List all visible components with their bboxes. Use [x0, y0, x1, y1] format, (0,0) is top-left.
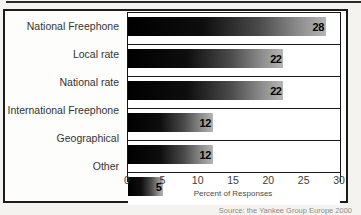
bar: 22 [128, 49, 283, 68]
category-label: National Freephone [5, 12, 123, 40]
x-tick-label: 0 [124, 174, 130, 186]
chart-row: 22 [128, 81, 340, 109]
chart-panel: National Freephone Local rate National r… [3, 9, 348, 203]
bar-value-label: 12 [200, 117, 211, 129]
bar: 28 [128, 17, 326, 36]
x-axis-title: Percent of Responses [127, 189, 339, 198]
chart-row: 12 [128, 145, 340, 173]
bar-value-label: 22 [270, 85, 281, 97]
x-axis-ticks: 0 5 10 15 20 25 30 [127, 174, 339, 188]
category-label: Local rate [5, 40, 123, 68]
chart-row: 22 [128, 49, 340, 77]
category-label: International Freephone [5, 96, 123, 124]
chart-row: 12 [128, 113, 340, 141]
x-tick-label: 30 [333, 174, 345, 186]
bar-value-label: 28 [313, 21, 324, 33]
plot-area: 28 22 22 12 12 5 [127, 12, 341, 182]
x-tick-label: 5 [159, 174, 165, 186]
x-tick-label: 20 [262, 174, 274, 186]
bar-value-label: 22 [270, 53, 281, 65]
x-tick-label: 15 [227, 174, 239, 186]
top-rule [6, 1, 361, 3]
chart-row: 28 [128, 17, 340, 45]
category-label: National rate [5, 68, 123, 96]
bar: 12 [128, 145, 213, 164]
source-note: Source: the Yankee Group Europe 2000 [219, 206, 352, 215]
category-label: Geographical [5, 124, 123, 152]
category-axis: National Freephone Local rate National r… [5, 12, 123, 180]
x-tick-label: 25 [298, 174, 310, 186]
bar: 12 [128, 113, 213, 132]
category-label: Other [5, 152, 123, 180]
bar-value-label: 12 [200, 149, 211, 161]
bar: 22 [128, 81, 283, 100]
x-tick-label: 10 [192, 174, 204, 186]
